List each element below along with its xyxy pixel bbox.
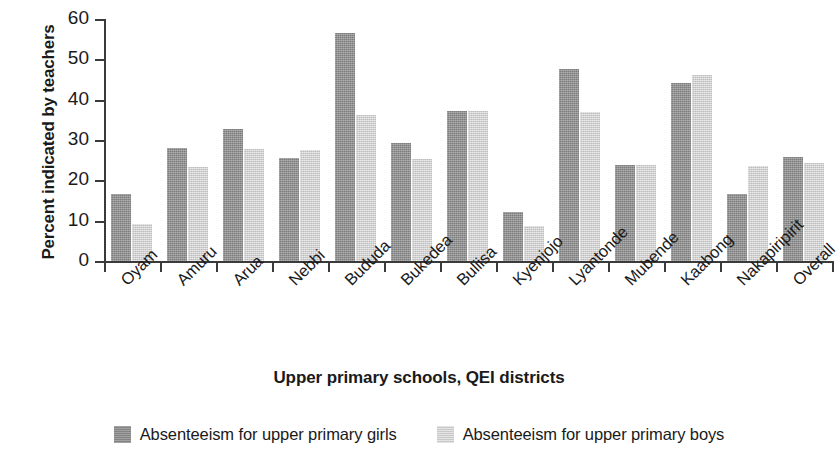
plot-area: 0102030405060 bbox=[104, 19, 832, 262]
x-axis-tick bbox=[440, 263, 442, 272]
x-axis-tick bbox=[776, 263, 778, 272]
bar-boys bbox=[692, 75, 712, 261]
bar-group bbox=[503, 18, 545, 261]
y-axis-tick-label: 50 bbox=[55, 48, 89, 68]
bar-group bbox=[111, 18, 153, 261]
bar-girls bbox=[111, 194, 131, 261]
bar-group bbox=[391, 18, 433, 261]
bar-boys bbox=[356, 115, 376, 261]
x-axis-tick bbox=[496, 263, 498, 272]
x-axis-tick-labels: OyamAmuruAruaNebbiBududaBukedeaBuliisaKy… bbox=[104, 276, 834, 356]
x-axis-tick bbox=[104, 263, 106, 272]
chart-legend: Absenteeism for upper primary girls Abse… bbox=[0, 425, 838, 444]
y-axis-tick-label: 20 bbox=[55, 169, 89, 189]
y-axis-tick: 10 bbox=[95, 221, 104, 223]
bar-group bbox=[447, 18, 489, 261]
y-axis-tick-label: 60 bbox=[55, 8, 89, 28]
bar-group bbox=[335, 18, 377, 261]
y-axis-tick-label: 30 bbox=[55, 129, 89, 149]
bar-girls bbox=[335, 33, 355, 261]
bar-girls bbox=[503, 212, 523, 261]
y-axis-tick: 30 bbox=[95, 140, 104, 142]
y-axis-line bbox=[104, 19, 106, 263]
x-axis-tick bbox=[384, 263, 386, 272]
bar-group bbox=[279, 18, 321, 261]
bar-boys bbox=[244, 149, 264, 261]
legend-label-girls: Absenteeism for upper primary girls bbox=[140, 425, 397, 444]
y-axis-tick: 60 bbox=[95, 19, 104, 21]
x-axis-tick bbox=[328, 263, 330, 272]
x-axis-tick bbox=[608, 263, 610, 272]
x-axis-tick bbox=[272, 263, 274, 272]
y-axis-tick: 20 bbox=[95, 180, 104, 182]
y-axis-tick: 50 bbox=[95, 59, 104, 61]
bar-girls bbox=[727, 194, 747, 261]
bar-boys bbox=[580, 112, 600, 261]
x-axis-tick bbox=[720, 263, 722, 272]
y-axis-tick: 0 bbox=[95, 261, 104, 263]
bar-group bbox=[167, 18, 209, 261]
x-axis-tick bbox=[160, 263, 162, 272]
x-axis-title: Upper primary schools, QEI districts bbox=[0, 368, 838, 388]
x-axis-tick bbox=[216, 263, 218, 272]
y-axis-tick-label: 10 bbox=[55, 210, 89, 230]
x-axis-tick bbox=[664, 263, 666, 272]
bar-girls bbox=[391, 143, 411, 261]
legend-item-boys: Absenteeism for upper primary boys bbox=[437, 425, 725, 444]
bar-group bbox=[223, 18, 265, 261]
bar-girls bbox=[559, 69, 579, 261]
bar-boys bbox=[300, 150, 320, 261]
legend-item-girls: Absenteeism for upper primary girls bbox=[114, 425, 397, 444]
bar-group bbox=[671, 18, 713, 261]
bar-boys bbox=[468, 111, 488, 261]
legend-label-boys: Absenteeism for upper primary boys bbox=[463, 425, 725, 444]
bar-girls bbox=[223, 129, 243, 261]
legend-swatch-boys bbox=[437, 426, 454, 443]
x-axis-tick bbox=[552, 263, 554, 272]
x-axis-tick bbox=[832, 263, 834, 272]
y-axis-tick: 40 bbox=[95, 100, 104, 102]
y-axis-tick-label: 0 bbox=[55, 250, 89, 270]
bar-chart-figure: Percent indicated by teachers 0102030405… bbox=[0, 0, 838, 457]
bar-girls bbox=[167, 148, 187, 261]
bar-group bbox=[559, 18, 601, 261]
y-axis-tick-label: 40 bbox=[55, 89, 89, 109]
bar-girls bbox=[279, 158, 299, 261]
legend-swatch-girls bbox=[114, 426, 131, 443]
bar-group bbox=[727, 18, 769, 261]
